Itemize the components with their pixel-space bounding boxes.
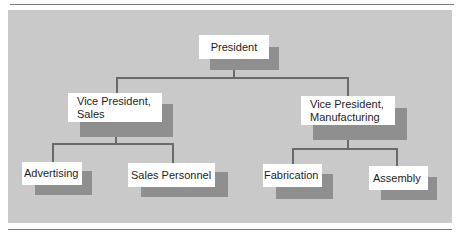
connector-manufacturing-horizontal	[292, 148, 398, 150]
vp-manufacturing-label: Vice President, Manufacturing	[310, 98, 384, 124]
connector-level1-horizontal	[116, 77, 349, 79]
sales-personnel-node: Sales Personnel	[128, 163, 215, 187]
assembly-label: Assembly	[373, 172, 421, 185]
connector-to-vp-manufacturing	[347, 77, 349, 97]
connector-to-assembly	[396, 148, 398, 167]
president-node: President	[199, 35, 269, 59]
fabrication-node: Fabrication	[263, 164, 322, 187]
connector-to-advertising	[52, 143, 54, 163]
vp-sales-node: Vice President, Sales	[68, 93, 162, 122]
advertising-node: Advertising	[22, 162, 82, 185]
top-rule	[10, 4, 454, 5]
fabrication-label: Fabrication	[264, 169, 318, 182]
connector-to-vp-sales	[116, 77, 118, 94]
assembly-node: Assembly	[369, 166, 428, 190]
sales-personnel-label: Sales Personnel	[131, 169, 211, 182]
connector-sales-horizontal	[52, 143, 174, 145]
advertising-label: Advertising	[24, 167, 78, 180]
vp-sales-label: Vice President, Sales	[77, 95, 151, 121]
connector-to-sales-personnel	[172, 143, 174, 164]
connector-to-fabrication	[292, 148, 294, 165]
bottom-rule	[8, 229, 452, 230]
president-label: President	[211, 41, 257, 54]
vp-manufacturing-node: Vice President, Manufacturing	[301, 96, 395, 125]
